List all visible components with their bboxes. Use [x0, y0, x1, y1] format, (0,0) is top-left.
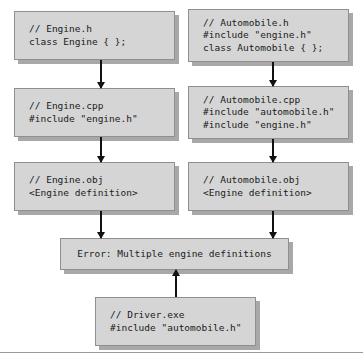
arrow-automobile-cpp-to-automobile-obj — [272, 139, 274, 162]
node-automobile-cpp: // Automobile.cpp #include "automobile.h… — [188, 86, 349, 139]
node-driver: // Driver.exe #include "automobile.h" — [95, 297, 256, 346]
node-engine-obj-line-1: // Engine.obj — [29, 174, 174, 187]
arrow-engine-obj-to-error — [100, 211, 102, 238]
node-engine-h-line-1: // Engine.h — [29, 23, 174, 36]
arrow-automobile-h-to-automobile-cpp — [272, 62, 274, 86]
node-automobile-cpp-line-3: #include "engine.h" — [203, 119, 348, 132]
diagram-canvas: // Engine.h class Engine { }; // Automob… — [0, 0, 363, 362]
arrow-engine-cpp-to-engine-obj — [100, 137, 102, 162]
node-automobile-cpp-line-2: #include "automobile.h" — [203, 106, 348, 119]
node-automobile-h-line-3: class Automobile { }; — [203, 42, 348, 55]
node-automobile-cpp-line-1: // Automobile.cpp — [203, 94, 348, 107]
node-error: Error: Multiple engine definitions — [60, 238, 289, 270]
arrow-driver-to-error — [175, 270, 177, 297]
arrow-engine-h-to-engine-cpp — [100, 60, 102, 88]
arrow-automobile-obj-to-error — [272, 211, 274, 238]
node-engine-cpp: // Engine.cpp #include "engine.h" — [14, 88, 175, 137]
node-engine-cpp-line-1: // Engine.cpp — [29, 100, 174, 113]
node-error-line-1: Error: Multiple engine definitions — [77, 248, 271, 261]
arrowhead-down-icon — [269, 232, 277, 239]
node-automobile-obj-line-2: <Engine definition> — [203, 187, 348, 200]
arrowhead-down-icon — [97, 156, 105, 163]
node-automobile-h-line-1: // Automobile.h — [203, 17, 348, 30]
node-engine-obj-line-2: <Engine definition> — [29, 187, 174, 200]
node-automobile-obj: // Automobile.obj <Engine definition> — [188, 162, 349, 211]
bottom-divider — [0, 352, 363, 353]
arrowhead-up-icon — [172, 269, 180, 276]
node-engine-cpp-line-2: #include "engine.h" — [29, 113, 174, 126]
arrowhead-down-icon — [97, 232, 105, 239]
arrowhead-down-icon — [269, 156, 277, 163]
node-engine-h-line-2: class Engine { }; — [29, 36, 174, 49]
node-driver-line-2: #include "automobile.h" — [110, 322, 255, 335]
arrowhead-down-icon — [269, 80, 277, 87]
node-engine-obj: // Engine.obj <Engine definition> — [14, 162, 175, 211]
node-automobile-h: // Automobile.h #include "engine.h" clas… — [188, 9, 349, 62]
node-automobile-h-line-2: #include "engine.h" — [203, 29, 348, 42]
node-automobile-obj-line-1: // Automobile.obj — [203, 174, 348, 187]
node-driver-line-1: // Driver.exe — [110, 309, 255, 322]
arrowhead-down-icon — [97, 82, 105, 89]
node-engine-h: // Engine.h class Engine { }; — [14, 11, 175, 60]
